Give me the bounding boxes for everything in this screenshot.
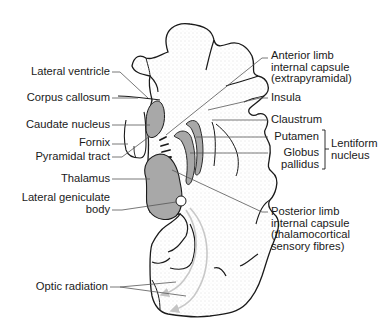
label-anterior-limb-internal-capsule: Anterior limb internal capsule (extrapyr… <box>271 50 352 85</box>
label-line: nucleus <box>331 150 378 162</box>
label-line: (extrapyramidal) <box>271 73 352 85</box>
label-line: Lentiform <box>331 138 378 150</box>
label-line: Globus <box>281 147 319 159</box>
label-line: Posterior limb <box>271 206 350 218</box>
label-putamen: Putamen <box>274 131 319 143</box>
label-pyramidal-tract: Pyramidal tract <box>35 151 110 163</box>
lateral-geniculate-shape <box>176 196 186 206</box>
label-thalamus: Thalamus <box>61 173 110 185</box>
label-line: pallidus <box>281 159 319 171</box>
lentiform-bracket <box>322 130 329 169</box>
label-line: (thalamocortical <box>271 229 350 241</box>
label-posterior-limb-internal-capsule: Posterior limb internal capsule (thalamo… <box>271 206 350 252</box>
label-claustrum: Claustrum <box>271 114 322 126</box>
label-insula: Insula <box>271 92 301 104</box>
label-caudate-nucleus: Caudate nucleus <box>26 119 110 131</box>
label-optic-radiation: Optic radiation <box>36 281 108 293</box>
label-line: sensory fibres) <box>271 241 350 253</box>
label-line: body <box>22 204 110 216</box>
label-globus-pallidus: Globus pallidus <box>281 147 319 170</box>
label-line: Lateral geniculate <box>22 192 110 204</box>
label-lateral-ventricle: Lateral ventricle <box>31 66 110 78</box>
label-fornix: Fornix <box>79 137 110 149</box>
label-lateral-geniculate-body: Lateral geniculate body <box>22 192 110 215</box>
label-line: Anterior limb <box>271 50 352 62</box>
label-lentiform-nucleus: Lentiform nucleus <box>331 138 378 161</box>
label-corpus-callosum: Corpus callosum <box>27 92 110 104</box>
